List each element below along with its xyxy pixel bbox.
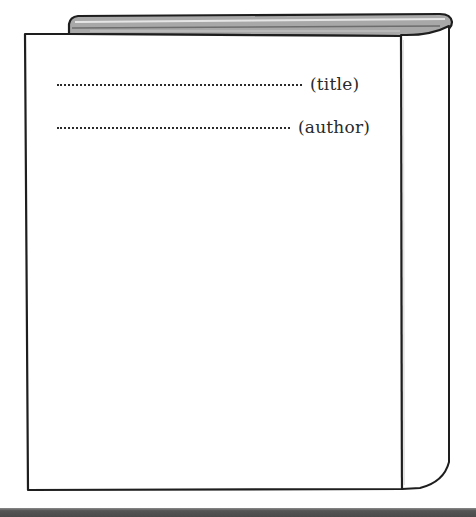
author-field[interactable]: (author) [57,117,370,137]
front-cover [25,34,402,490]
title-label: (title) [310,74,359,94]
author-dotted-line[interactable] [57,127,290,129]
spine-divider [401,36,402,489]
author-label: (author) [298,117,370,137]
page-edges [69,14,452,36]
bottom-bar [0,508,476,517]
title-dotted-line[interactable] [57,84,302,86]
book-spine [401,26,449,489]
title-field[interactable]: (title) [57,74,359,94]
